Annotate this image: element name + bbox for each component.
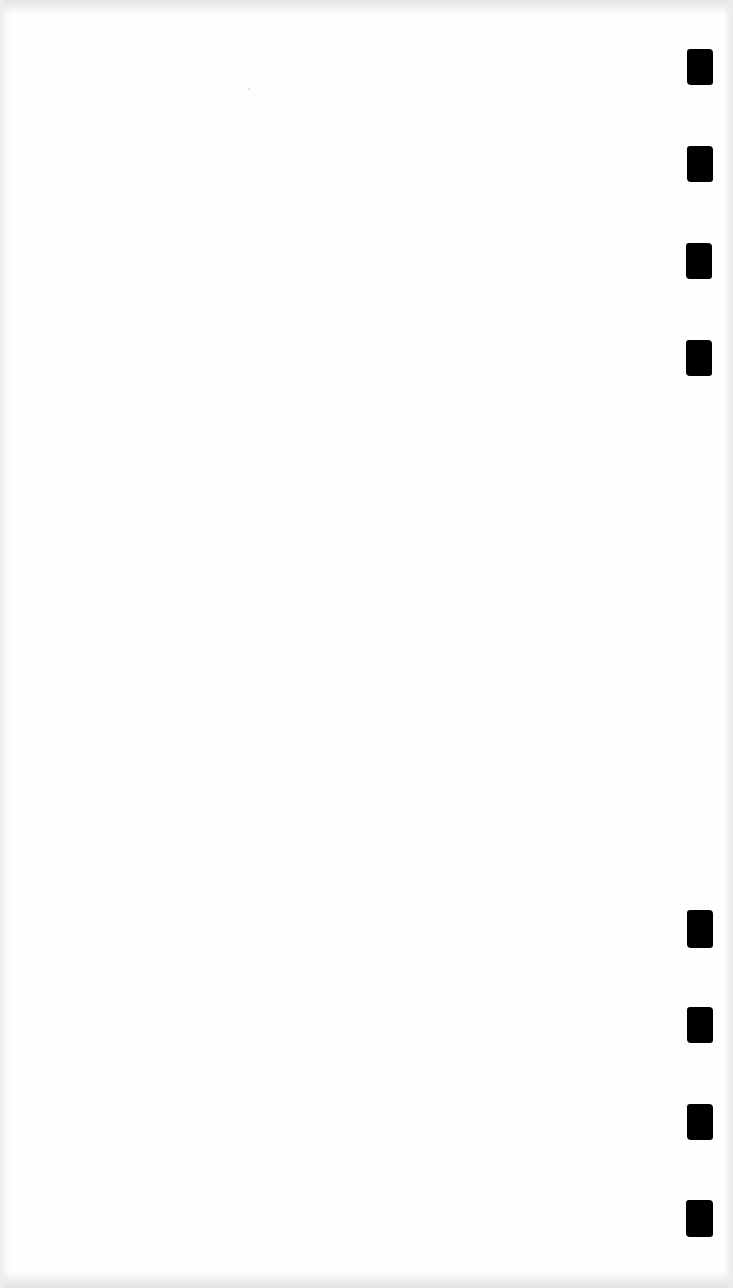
scan-border-left (0, 0, 6, 1288)
timing-mark (686, 340, 712, 376)
scanned-page (0, 0, 733, 1288)
timing-mark (687, 49, 713, 85)
timing-mark (686, 1200, 713, 1237)
timing-mark (687, 146, 713, 182)
timing-mark (687, 1007, 713, 1043)
scan-border-top (0, 0, 733, 14)
dust-speck (248, 88, 250, 90)
scan-border-bottom (0, 1272, 733, 1288)
scan-border-right (725, 0, 733, 1288)
timing-mark (687, 910, 713, 948)
timing-mark (686, 243, 712, 279)
timing-mark (687, 1104, 713, 1140)
